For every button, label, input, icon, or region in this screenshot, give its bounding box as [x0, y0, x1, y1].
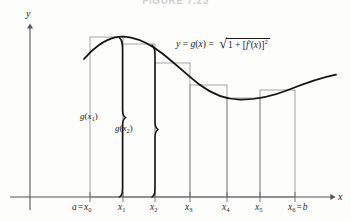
equation-equals-1: = — [180, 39, 190, 49]
brace-label-g-x1-close: ) — [95, 111, 98, 121]
tick-label-x1: x1 — [118, 203, 125, 213]
x-axis-label: x — [338, 192, 342, 202]
radicand-plus: + — [235, 40, 240, 50]
brace-g-x2 — [152, 45, 158, 197]
tick-label-x6-suffix: b — [303, 202, 308, 212]
tick-label-x6: x6=b — [288, 203, 308, 213]
brace-label-g-x2-sub: 2 — [127, 127, 130, 134]
tick-label-x0-equals: = — [77, 202, 84, 212]
tick-label-x3-sub: 3 — [189, 206, 192, 213]
tick-label-x3: x3 — [185, 203, 192, 213]
brace-label-g-x2-close: ) — [130, 123, 133, 133]
equation-equals-2: = — [206, 39, 216, 49]
tick-label-x5: x5 — [255, 203, 262, 213]
rectangle-3 — [190, 85, 227, 197]
equation-radicand: 1 + [f′(x)]2 — [226, 38, 270, 50]
rectangle-1 — [123, 44, 155, 197]
rectangle-2 — [155, 63, 190, 197]
y-axis-label: y — [26, 9, 30, 19]
brace-label-g-x1-var: x — [88, 111, 92, 121]
tick-label-x4: x4 — [222, 203, 229, 213]
figure-container: FIGURE 7.23 — [0, 0, 351, 221]
curve-equation-label: y = g(x) = √ 1 + [f′(x)]2 — [176, 38, 270, 50]
brace-label-g-x2: g(x2) — [115, 124, 133, 133]
rectangle-4 — [227, 98, 260, 197]
tick-label-x5-sub: 5 — [259, 206, 262, 213]
axes — [10, 27, 332, 210]
brace-label-g-x2-var: x — [123, 123, 127, 133]
riemann-rectangles — [90, 37, 295, 197]
tick-label-x2: x2 — [150, 203, 157, 213]
tick-label-x4-sub: 4 — [226, 206, 229, 213]
figure-graphic — [0, 0, 351, 221]
tick-label-x0: a=x0 — [72, 203, 92, 213]
brace-label-g-x1-sub: 1 — [92, 115, 95, 122]
tick-label-x0-sub: 0 — [88, 206, 91, 213]
equation-sqrt-group: √ 1 + [f′(x)]2 — [219, 38, 269, 50]
brace-g-x1 — [120, 38, 126, 197]
height-braces — [120, 38, 159, 197]
tick-label-x6-equals: = — [295, 202, 302, 212]
tick-label-x1-sub: 1 — [122, 206, 125, 213]
rectangle-5 — [260, 90, 295, 197]
radicand-one: 1 — [228, 40, 233, 50]
tick-label-x2-sub: 2 — [154, 206, 157, 213]
brace-label-g-x1: g(x1) — [80, 112, 98, 121]
radicand-exponent: 2 — [264, 38, 267, 45]
tick-label-x6-sub: 6 — [292, 206, 295, 213]
